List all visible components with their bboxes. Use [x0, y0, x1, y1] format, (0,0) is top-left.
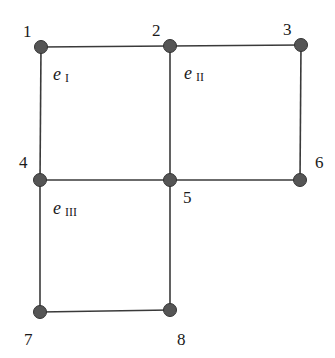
element-label-I: eI — [53, 64, 69, 85]
node-label-7: 7 — [24, 330, 33, 349]
element-label-II: eII — [184, 63, 204, 84]
edge-3-6 — [300, 45, 301, 180]
edge-1-2 — [41, 46, 170, 47]
node-label-2: 2 — [152, 21, 161, 40]
node-4 — [34, 174, 47, 187]
edge-1-4 — [40, 47, 41, 180]
node-1 — [35, 41, 48, 54]
element-labels: eIeIIeIII — [53, 63, 204, 219]
node-label-3: 3 — [283, 20, 292, 39]
node-label-1: 1 — [23, 22, 32, 41]
node-label-5: 5 — [183, 188, 192, 207]
node-5 — [164, 174, 177, 187]
edge-7-8 — [40, 310, 170, 312]
element-label-III: eIII — [53, 198, 77, 219]
edge-2-3 — [170, 45, 301, 46]
node-label-4: 4 — [19, 153, 28, 172]
node-label-6: 6 — [315, 153, 324, 172]
mesh-diagram: 12345678 eIeIIeIII — [0, 0, 335, 358]
node-2 — [164, 40, 177, 53]
node-8 — [164, 304, 177, 317]
node-6 — [294, 174, 307, 187]
node-7 — [34, 306, 47, 319]
node-label-8: 8 — [177, 330, 186, 349]
node-3 — [295, 39, 308, 52]
